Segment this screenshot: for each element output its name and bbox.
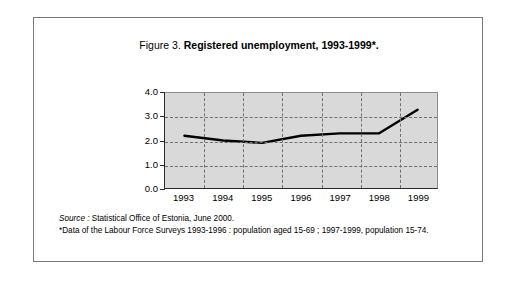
source-label: Source : — [59, 214, 90, 223]
chart-title-prefix: Figure 3. — [139, 39, 180, 51]
x-tick-label: 1998 — [369, 192, 390, 203]
x-tick-label: 1996 — [290, 192, 311, 203]
gridline-vertical — [361, 93, 362, 188]
gridline-vertical — [243, 93, 244, 188]
gridline-vertical — [204, 93, 205, 188]
series-line-chart — [165, 93, 437, 188]
source-value: Statistical Office of Estonia, June 2000… — [90, 214, 235, 223]
x-tick-label: 1994 — [212, 192, 233, 203]
chart-title: Figure 3. Registered unemployment, 1993-… — [34, 39, 484, 52]
series-line-path — [184, 110, 417, 143]
footnotes: Source : Statistical Office of Estonia, … — [59, 213, 479, 236]
x-tick-label: 1997 — [330, 192, 351, 203]
y-tick-label: 4.0 — [132, 87, 158, 97]
gridline-vertical — [322, 93, 323, 188]
y-tick-label: 1.0 — [132, 160, 158, 170]
gridline-vertical — [282, 93, 283, 188]
y-tick-label: 0.0 — [132, 184, 158, 194]
x-tick-label: 1999 — [408, 192, 429, 203]
figure-frame: Figure 3. Registered unemployment, 1993-… — [33, 17, 483, 262]
x-tick-label: 1995 — [251, 192, 272, 203]
y-tick-mark — [160, 141, 165, 142]
y-axis-labels: 4.03.02.01.00.0 — [130, 92, 158, 189]
source-line: Source : Statistical Office of Estonia, … — [59, 213, 479, 225]
y-tick-mark — [160, 165, 165, 166]
note-line: *Data of the Labour Force Surveys 1993-1… — [59, 225, 479, 237]
gridline-horizontal — [165, 117, 437, 118]
x-axis-labels: 1993199419951996199719981999 — [164, 192, 438, 206]
y-tick-mark — [160, 116, 165, 117]
x-tick-label: 1993 — [173, 192, 194, 203]
y-tick-mark — [160, 92, 165, 93]
chart-title-main: Registered unemployment, 1993-1999*. — [184, 39, 379, 51]
gridline-horizontal — [165, 142, 437, 143]
plot-area — [164, 92, 438, 189]
y-tick-label: 2.0 — [132, 136, 158, 146]
y-tick-mark — [160, 189, 165, 190]
y-tick-label: 3.0 — [132, 111, 158, 121]
gridline-horizontal — [165, 166, 437, 167]
gridline-vertical — [400, 93, 401, 188]
